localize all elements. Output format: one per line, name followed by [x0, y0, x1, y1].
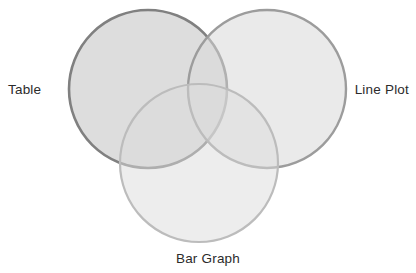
set-label-line-plot: Line Plot	[355, 83, 409, 97]
set-label-bar-graph: Bar Graph	[0, 252, 416, 266]
venn-canvas	[0, 0, 416, 273]
circle-bar-graph[interactable]	[120, 84, 278, 242]
set-label-table: Table	[8, 83, 41, 97]
venn-diagram: Table Line Plot Bar Graph	[0, 0, 416, 273]
